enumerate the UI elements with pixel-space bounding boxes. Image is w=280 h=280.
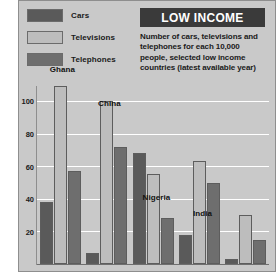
bar-china-telephones [114, 147, 127, 264]
legend-item-cars: Cars [27, 9, 132, 23]
legend-label-cars: Cars [71, 11, 89, 20]
bar-ghana-cars [40, 202, 53, 264]
right-margin [276, 0, 280, 280]
bar-india-cars [179, 235, 192, 264]
y-tick-80: 80 [10, 130, 34, 139]
country-label-china: China [98, 99, 121, 108]
chart-title: LOW INCOME [140, 11, 265, 25]
bar-nigeria-telephones [161, 218, 174, 264]
y-tick-40: 40 [10, 195, 34, 204]
bar-bangladesh-telephones [253, 240, 266, 264]
legend-item-televisions: Televisions [27, 31, 132, 45]
bar-nigeria-cars [133, 153, 146, 264]
bar-nigeria-televisions [147, 174, 160, 264]
gridline-60 [37, 166, 269, 167]
plot-area: GhanaChinaNigeriaIndiaBangladesh [37, 86, 269, 264]
chart-legend: Cars Televisions Telephones [27, 9, 127, 67]
legend-label-telephones: Telephones [71, 55, 116, 64]
country-label-nigeria: Nigeria [143, 193, 171, 202]
legend-label-televisions: Televisions [71, 33, 115, 42]
x-axis-baseline [37, 264, 269, 265]
bar-china-televisions [100, 101, 113, 264]
y-tick-100: 100 [10, 97, 34, 106]
country-label-india: India [193, 209, 212, 218]
bar-ghana-televisions [54, 86, 67, 264]
bar-bangladesh-televisions [239, 215, 252, 264]
y-tick-20: 20 [10, 228, 34, 237]
bar-india-telephones [207, 183, 220, 265]
bar-bangladesh-cars [225, 259, 238, 264]
chart-figure: Cars Televisions Telephones LOW INCOME N… [0, 0, 280, 280]
gridline-100 [37, 101, 269, 102]
gridline-80 [37, 134, 269, 135]
bar-china-cars [86, 253, 99, 264]
bar-ghana-telephones [68, 171, 81, 264]
bottom-margin [0, 272, 280, 280]
legend-item-telephones: Telephones [27, 53, 132, 67]
country-label-ghana: Ghana [50, 65, 75, 74]
chart-subtitle: Number of cars, televisions and telephon… [140, 32, 268, 74]
y-axis-ticks: 100 80 60 40 20 [8, 0, 34, 280]
y-tick-60: 60 [10, 163, 34, 172]
